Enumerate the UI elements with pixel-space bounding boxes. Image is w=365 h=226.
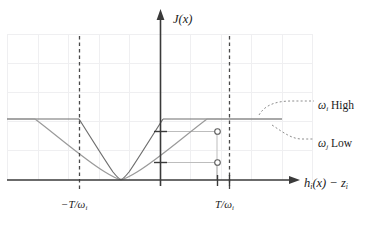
curve-omega-i-high (7, 119, 282, 180)
threshold-dashed-lines (80, 36, 230, 192)
legend-label-omega-j-low: ωj Low (318, 137, 352, 151)
legend-label-omega-i-high: ωi High (318, 99, 354, 113)
legend-leader-lines (259, 101, 314, 139)
marker-omega-i-high (215, 129, 221, 135)
tick-marks (154, 132, 230, 187)
axes (7, 14, 293, 186)
cost-function-plot (0, 0, 365, 226)
y-axis-arrowhead (157, 9, 165, 20)
leader-omega-j-low (272, 125, 314, 139)
x-tick-label-negative-threshold: −T/ωi (61, 198, 87, 211)
marker-leader-lines (161, 132, 217, 181)
x-tick-label-positive-threshold: T/ωi (215, 198, 234, 211)
leader-omega-i-high (259, 101, 314, 115)
marker-omega-j-low (215, 160, 221, 166)
curve-omega-j-low (7, 119, 282, 180)
y-axis-label: J(x) (173, 12, 192, 27)
x-axis-label: hi(x) − zi (304, 176, 348, 191)
x-axis-arrowhead (289, 176, 300, 184)
